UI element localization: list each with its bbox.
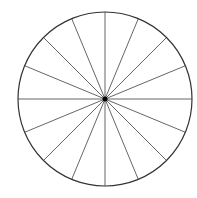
sector-circle-diagram (0, 0, 197, 198)
center-dot (103, 97, 108, 102)
